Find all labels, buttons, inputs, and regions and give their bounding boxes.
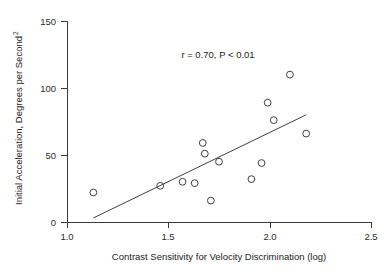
data-point	[207, 197, 214, 204]
x-axis-ticks: 1.0 1.5 2.0 2.5	[60, 222, 377, 242]
y-axis-ticks: 0 50 100 150	[40, 16, 67, 228]
data-point	[201, 150, 208, 157]
x-tick-label-2-5: 2.5	[364, 231, 377, 242]
y-axis-title: Initial Acceleration, Degrees per Second…	[12, 31, 24, 205]
x-tick-label-1-0: 1.0	[60, 231, 73, 242]
plot-canvas: Initial Acceleration, Degrees per Second…	[0, 0, 391, 271]
data-point	[199, 140, 206, 147]
data-point	[264, 99, 271, 106]
data-point	[303, 130, 310, 137]
x-axis-title: Contrast Sensitivity for Velocity Discri…	[112, 251, 326, 262]
data-point	[191, 180, 198, 187]
y-tick-label-0: 0	[51, 217, 56, 228]
data-point	[179, 178, 186, 185]
x-tick-label-2-0: 2.0	[263, 231, 276, 242]
scatter-plot-figure: Initial Acceleration, Degrees per Second…	[0, 0, 391, 271]
data-point	[258, 160, 265, 167]
data-point	[248, 176, 255, 183]
y-tick-label-100: 100	[40, 83, 56, 94]
data-point-group	[90, 71, 310, 204]
data-point	[216, 158, 223, 165]
y-tick-label-50: 50	[45, 150, 56, 161]
correlation-annotation: r = 0.70, P < 0.01	[181, 49, 254, 60]
data-point	[287, 71, 294, 78]
data-point	[90, 189, 97, 196]
y-tick-label-150: 150	[40, 16, 56, 27]
x-tick-label-1-5: 1.5	[161, 231, 174, 242]
regression-line	[93, 115, 306, 218]
y-axis-title-text: Initial Acceleration, Degrees per Second	[13, 36, 24, 205]
data-point	[270, 117, 277, 124]
y-axis-title-superscript: 2	[12, 31, 19, 35]
